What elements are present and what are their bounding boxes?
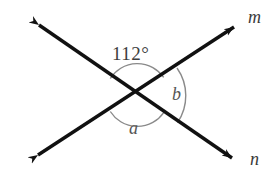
angle-b-label: b [172, 85, 181, 103]
line-n-label: n [250, 150, 259, 168]
angle-a-label: a [129, 119, 138, 137]
diagram-canvas [0, 0, 280, 176]
angle-measure-label: 112° [112, 44, 149, 63]
geometry-figure: 112° a b m n [0, 0, 280, 176]
line-m-label: m [248, 8, 261, 26]
